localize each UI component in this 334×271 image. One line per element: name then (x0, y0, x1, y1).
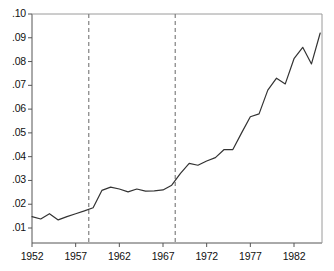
axis-ticks (28, 14, 294, 247)
reference-lines (89, 14, 175, 243)
y-tick-label: .07 (0, 78, 26, 90)
x-tick-label: 1962 (99, 250, 139, 262)
x-tick-label: 1977 (230, 250, 270, 262)
y-tick-label: .01 (0, 221, 26, 233)
y-tick-label: .08 (0, 55, 26, 67)
x-tick-label: 1972 (187, 250, 227, 262)
y-tick-label: .10 (0, 7, 26, 19)
y-tick-label: .05 (0, 126, 26, 138)
y-tick-label: .09 (0, 31, 26, 43)
y-tick-label: .06 (0, 102, 26, 114)
chart-container: .01.02.03.04.05.06.07.08.09.10 195219571… (0, 0, 334, 271)
x-tick-label: 1982 (274, 250, 314, 262)
y-tick-label: .02 (0, 197, 26, 209)
x-tick-label: 1967 (143, 250, 183, 262)
data-series (32, 33, 320, 220)
x-tick-label: 1952 (12, 250, 52, 262)
y-tick-label: .04 (0, 150, 26, 162)
axes (32, 14, 322, 243)
line-chart-plot (0, 0, 334, 271)
x-tick-label: 1957 (56, 250, 96, 262)
y-tick-label: .03 (0, 173, 26, 185)
